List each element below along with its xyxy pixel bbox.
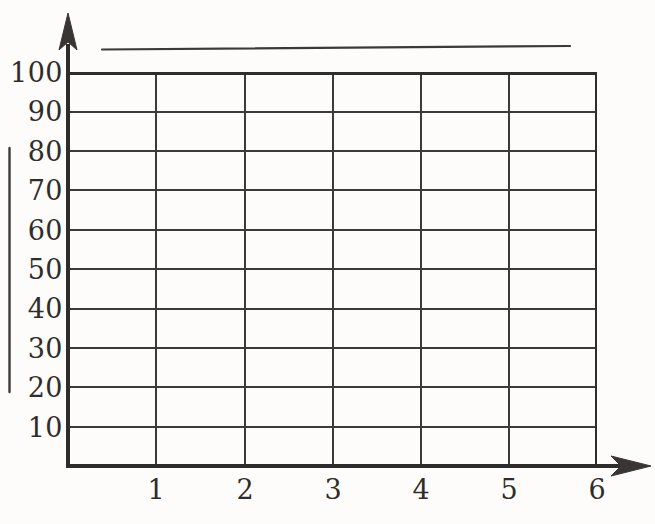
- x-tick-label: 3: [313, 476, 353, 503]
- x-tick-label: 4: [401, 476, 441, 503]
- x-tick-label: 1: [136, 476, 176, 503]
- graph-page: 100 90 80 70 60 50 40 30 20 10 1 2 3 4 5…: [0, 0, 655, 524]
- x-tick-label: 2: [225, 476, 265, 503]
- x-tick-label: 6: [577, 476, 617, 503]
- x-tick-label: 5: [489, 476, 529, 503]
- x-axis-tick-labels: 1 2 3 4 5 6: [0, 0, 655, 524]
